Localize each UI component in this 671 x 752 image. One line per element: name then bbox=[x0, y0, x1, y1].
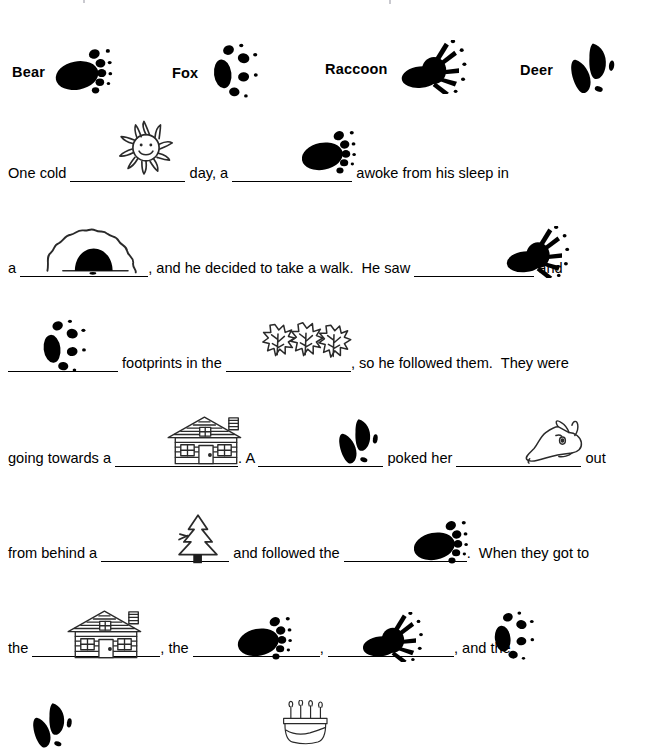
bear-track-icon bbox=[408, 518, 470, 568]
scan-artifact bbox=[83, 0, 85, 3]
bear-track-icon bbox=[51, 46, 113, 98]
animal-track-legend: Bear Fox Raccoon Deer bbox=[0, 22, 671, 92]
deer-track-icon bbox=[559, 40, 621, 100]
story-text: , the bbox=[160, 640, 192, 657]
story-text: . When they got to bbox=[467, 545, 590, 562]
legend-item-raccoon: Raccoon bbox=[325, 40, 470, 98]
raccoon-track-icon bbox=[355, 612, 427, 666]
story-text: poked her bbox=[383, 450, 456, 467]
leaves-icon bbox=[258, 318, 354, 370]
legend-label-bear: Bear bbox=[12, 64, 45, 80]
fox-track-icon bbox=[482, 610, 540, 666]
pine-tree-icon bbox=[163, 512, 233, 568]
story-text: , so he followed them. They were bbox=[351, 355, 569, 372]
legend-label-fox: Fox bbox=[172, 65, 198, 81]
scan-artifact bbox=[389, 0, 391, 4]
bear-track-icon bbox=[296, 128, 358, 178]
cabin-icon bbox=[65, 608, 147, 664]
story-text: , and he decided to take a walk. He saw bbox=[148, 260, 414, 277]
legend-label-deer: Deer bbox=[520, 62, 553, 78]
raccoon-track-icon bbox=[394, 40, 470, 98]
fox-track-icon bbox=[30, 318, 92, 378]
story-text: awoke from his sleep in bbox=[352, 165, 509, 182]
story-text: , bbox=[320, 640, 328, 657]
story-line bbox=[0, 675, 671, 752]
story-text: day, a bbox=[185, 165, 232, 182]
story-text: going towards a bbox=[8, 450, 115, 467]
bear-track-icon bbox=[232, 614, 294, 664]
legend-item-fox: Fox bbox=[172, 42, 260, 104]
deer-track-icon bbox=[22, 700, 78, 752]
story-text: the bbox=[8, 640, 32, 657]
sun-icon bbox=[110, 118, 182, 180]
story-text: One cold bbox=[8, 165, 70, 182]
story-text: and followed the bbox=[229, 545, 343, 562]
legend-item-deer: Deer bbox=[520, 40, 621, 100]
legend-item-bear: Bear bbox=[12, 46, 113, 98]
story-text: footprints in the bbox=[118, 355, 226, 372]
story-text: a bbox=[8, 260, 20, 277]
raccoon-track-icon bbox=[500, 226, 572, 282]
cabin-icon bbox=[165, 414, 247, 470]
story-text: from behind a bbox=[8, 545, 101, 562]
deer-track-icon bbox=[330, 416, 382, 470]
legend-label-raccoon: Raccoon bbox=[325, 61, 388, 77]
fox-track-icon bbox=[204, 42, 260, 104]
cave-icon bbox=[44, 226, 140, 280]
story-text-row: from behind a and followed the . When th… bbox=[8, 544, 671, 562]
story-line: from behind a and followed the . When th… bbox=[0, 485, 671, 580]
animal-head-icon bbox=[515, 418, 591, 470]
cake-icon bbox=[275, 700, 333, 750]
